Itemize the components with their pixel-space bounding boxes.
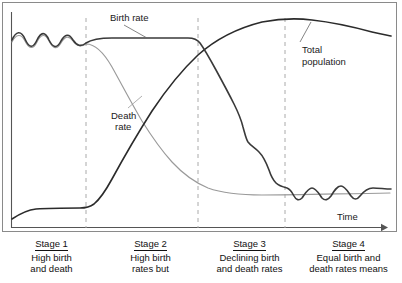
- stage-2-description: High birth rates but: [101, 252, 200, 275]
- total-population-label-line1: Total: [302, 44, 322, 55]
- stage-1-description: High birth and death: [2, 252, 101, 275]
- stage-caption-row: Stage 1 High birth and death Stage 2 Hig…: [2, 236, 398, 282]
- stage-2-title: Stage 2: [134, 238, 167, 251]
- stage-4-description: Equal birth and death rates means: [299, 252, 398, 275]
- stage-caption-4: Stage 4 Equal birth and death rates mean…: [299, 236, 398, 282]
- stage-4-title: Stage 4: [332, 238, 365, 251]
- x-axis-label: Time: [337, 211, 358, 222]
- birth-rate-label: Birth rate: [110, 12, 149, 23]
- demographic-transition-figure: Birth rate Death rate Total population T…: [0, 0, 402, 283]
- birth-rate-leader-line: [124, 25, 147, 38]
- stage-caption-1: Stage 1 High birth and death: [2, 236, 101, 282]
- stage-3-title: Stage 3: [233, 238, 266, 251]
- stage-caption-3: Stage 3 Declining birth and death rates: [200, 236, 299, 282]
- total-population-leader-line: [300, 22, 311, 42]
- figure-border: [3, 3, 397, 232]
- total-population-curve: [12, 19, 391, 219]
- total-population-label-line2: population: [302, 56, 346, 67]
- x-axis-arrowhead: [381, 224, 388, 231]
- death-rate-leader-line: [128, 96, 142, 108]
- stage-3-description: Declining birth and death rates: [200, 252, 299, 275]
- stage-1-title: Stage 1: [35, 238, 68, 251]
- death-rate-label-line2: rate: [115, 121, 131, 132]
- death-rate-label-line1: Death: [111, 110, 136, 121]
- stage-caption-2: Stage 2 High birth rates but: [101, 236, 200, 282]
